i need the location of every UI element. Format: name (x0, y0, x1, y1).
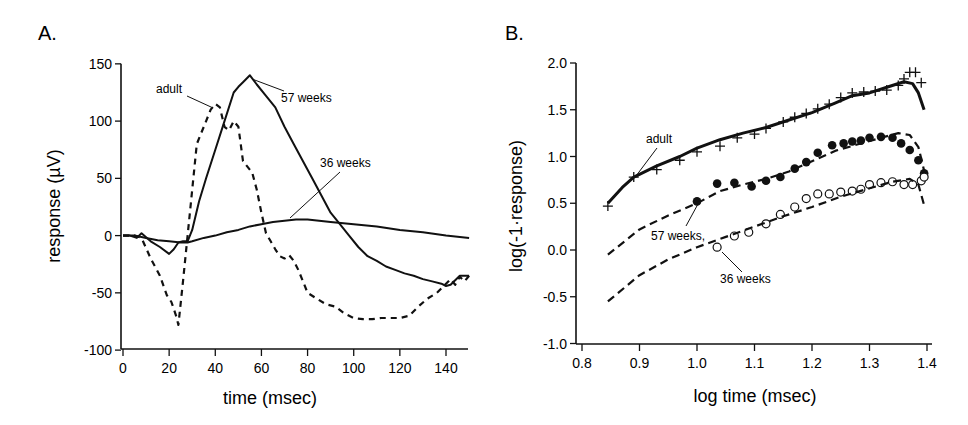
open-circle-marker (825, 190, 833, 198)
figure: A. 150100500-50-100020406080100120140 ti… (0, 0, 968, 425)
series-36-weeks-line (123, 220, 469, 243)
panel-a-label: A. (38, 22, 57, 44)
x-tick-label: 20 (161, 360, 177, 376)
y-tick-label: -1.0 (543, 336, 567, 352)
panel-b-x-axis-title: log time (msec) (693, 386, 816, 406)
x-tick-label: 1.1 (745, 355, 765, 371)
x-tick-label: 1.3 (860, 355, 880, 371)
open-circle-marker (920, 173, 928, 181)
x-tick-label: 80 (300, 360, 316, 376)
filled-circle-marker (813, 148, 822, 157)
series-57-weeks-line (123, 75, 469, 286)
y-tick-label: -0.5 (543, 289, 567, 305)
x-tick-label: 0.8 (572, 355, 592, 371)
x-tick-label: 140 (434, 360, 458, 376)
x-tick-label: 1.4 (917, 355, 937, 371)
panel-b-label: B. (505, 22, 524, 44)
annotation-adult: adult (156, 82, 183, 96)
annotation-36-weeks-arrow (290, 172, 340, 218)
filled-circle-marker (713, 179, 722, 188)
x-tick-label: 100 (342, 360, 366, 376)
panel-b: B. 2.01.51.00.50.0-0.5-1.00.80.91.01.11.… (505, 22, 937, 406)
annotation-57-weeks: 57 weeks (281, 91, 332, 105)
x-tick-label: 120 (388, 360, 412, 376)
annotation-36-weeks: 36 weeks (320, 156, 371, 170)
open-circle-marker (802, 195, 810, 203)
panel-b-y-axis-title: log(-1·response) (506, 140, 526, 272)
x-tick-label: 1.2 (802, 355, 822, 371)
annotation-adult-b: adult (646, 132, 673, 146)
panel-b-axes: 2.01.51.00.50.0-0.5-1.00.80.91.01.11.21.… (543, 55, 937, 371)
annotation-36-weeks-b-arrow (722, 252, 742, 272)
x-tick-label: 60 (254, 360, 270, 376)
x-tick-label: 1.0 (687, 355, 707, 371)
y-tick-label: 50 (96, 170, 112, 186)
open-circle-marker (713, 243, 721, 251)
annotation-36-weeks-b: 36 weeks (720, 272, 771, 286)
panel-a: A. 150100500-50-100020406080100120140 ti… (38, 22, 469, 408)
y-tick-label: -50 (92, 285, 112, 301)
annotation-adult-arrow (187, 96, 211, 107)
open-circle-marker (814, 190, 822, 198)
y-tick-label: 0.0 (548, 242, 568, 258)
filled-circle-marker (905, 146, 914, 155)
x-tick-label: 0.9 (630, 355, 650, 371)
filled-circle-marker (897, 139, 906, 148)
x-tick-label: 0 (119, 360, 127, 376)
y-tick-label: 2.0 (548, 55, 568, 71)
open-circle-marker (900, 181, 908, 189)
filled-circle-marker (762, 177, 771, 186)
y-tick-label: 1.5 (548, 102, 568, 118)
y-tick-label: 0 (104, 228, 112, 244)
y-tick-label: 0.5 (548, 195, 568, 211)
y-tick-label: -100 (84, 342, 112, 358)
filled-circle-marker (828, 141, 837, 150)
y-tick-label: 150 (89, 56, 113, 72)
annotation-57-weeks-b: 57 weeks, (651, 229, 705, 243)
plus-marker (911, 67, 921, 77)
x-tick-label: 40 (207, 360, 223, 376)
plus-marker (715, 141, 725, 151)
panel-a-axes: 150100500-50-100020406080100120140 (84, 56, 468, 376)
series-adult-line (123, 104, 469, 325)
open-circle-marker (791, 203, 799, 211)
panel-a-x-axis-title: time (msec) (223, 388, 317, 408)
panel-a-y-axis-title: response (µV) (44, 149, 64, 262)
plus-marker (916, 78, 926, 88)
y-tick-label: 1.0 (548, 149, 568, 165)
y-tick-label: 100 (89, 113, 113, 129)
panel-b-series (603, 67, 929, 301)
panel-a-series (123, 75, 469, 325)
